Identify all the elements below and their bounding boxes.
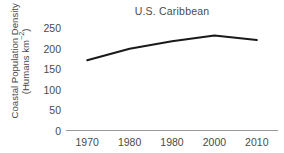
x-axis-tick-label: 2010 [245,136,268,148]
y-axis-label-exponent: −2 [18,32,27,40]
chart-figure: U.S. Caribbean Coastal Population Densit… [0,0,284,153]
y-axis-label-units-prefix: (Humans km [20,40,31,94]
y-axis-label-container: Coastal Population Density (Humans km−2) [0,0,40,136]
y-axis-label-units-suffix: ) [20,29,31,32]
y-axis-tick-label: 250 [43,22,61,34]
y-axis-tick-label: 0 [55,125,61,137]
x-axis-tick-label: 2000 [203,136,226,148]
series-line-coastal-population-density [87,36,257,61]
y-axis-tick-label: 150 [43,63,61,75]
y-axis-label-line1: Coastal Population Density [9,3,20,118]
y-axis-tick-label: 100 [43,84,61,96]
y-axis-label-line2: (Humans km−2) [20,4,31,118]
y-axis-tick-label: 200 [43,43,61,55]
y-axis-label: Coastal Population Density (Humans km−2) [9,4,32,118]
data-series-layer [66,24,278,131]
x-axis-tick-label: 1970 [76,136,99,148]
x-axis-tick-label: 1980 [160,136,183,148]
y-axis-tick-label: 50 [49,104,61,116]
plot-area: 050100150200250 19701980198020002010 [66,24,278,131]
x-axis-tick-label: 1980 [118,136,141,148]
chart-title: U.S. Caribbean [66,5,278,17]
